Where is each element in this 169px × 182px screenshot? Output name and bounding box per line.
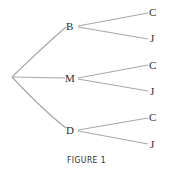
figure-caption: FIGURE 1 xyxy=(67,155,106,165)
node-d-j: J xyxy=(150,139,154,150)
edge-d-c xyxy=(78,118,148,130)
edge-root-d xyxy=(12,77,66,128)
edge-root-m xyxy=(12,77,65,78)
edge-m-c xyxy=(78,65,148,78)
edge-b-j xyxy=(78,27,148,39)
node-m: M xyxy=(65,73,75,84)
node-m-c: C xyxy=(149,60,156,71)
node-m-j: J xyxy=(150,86,154,97)
edge-d-j xyxy=(78,131,148,144)
node-b: B xyxy=(66,21,73,32)
node-d-c: C xyxy=(149,112,156,123)
edge-b-c xyxy=(78,13,148,26)
edge-root-b xyxy=(12,27,66,77)
node-d: D xyxy=(66,125,74,136)
node-b-c: C xyxy=(149,7,156,18)
edge-m-j xyxy=(78,79,148,91)
node-b-j: J xyxy=(150,33,154,44)
